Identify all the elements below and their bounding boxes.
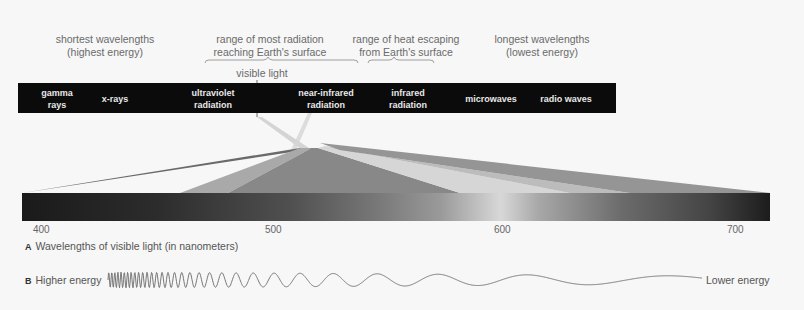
band-label: radiation [178,99,248,111]
band-near-infrared: near-infrared radiation [286,87,366,111]
energy-wave [108,272,702,288]
band-label: near-infrared [286,87,366,99]
band-ultraviolet: ultraviolet radiation [178,87,248,111]
band-label: gamma [32,87,82,99]
band-x-rays: x-rays [90,93,140,105]
band-label: ultraviolet [178,87,248,99]
band-label: radio waves [526,93,606,105]
diagram-graphics [0,0,804,310]
higher-energy-label: Higher energy [36,274,102,286]
band-label: infrared [373,87,443,99]
band-label: radiation [286,99,366,111]
em-spectrum-bar: gamma rays x-rays ultraviolet radiation … [18,83,616,113]
caption-text: Wavelengths of visible light (in nanomet… [36,240,239,252]
band-radio-waves: radio waves [526,93,606,105]
tick-400: 400 [33,224,50,235]
caption-a: AWavelengths of visible light (in nanome… [25,240,238,252]
brace-heat-escaping [368,57,434,63]
tick-500: 500 [265,224,282,235]
band-microwaves: microwaves [456,93,526,105]
lower-energy-label: Lower energy [706,274,770,286]
caption-b: BHigher energy [25,274,101,286]
brace-most-radiation [205,57,358,63]
caption-letter: B [25,276,32,286]
tick-600: 600 [494,224,511,235]
band-gamma-rays: gamma rays [32,87,82,111]
band-label: microwaves [456,93,526,105]
band-label: x-rays [90,93,140,105]
tick-700: 700 [727,224,744,235]
band-infrared: infrared radiation [373,87,443,111]
caption-letter: A [25,242,32,252]
band-label: radiation [373,99,443,111]
visible-spectrum-bar [22,193,770,221]
band-label: rays [32,99,82,111]
